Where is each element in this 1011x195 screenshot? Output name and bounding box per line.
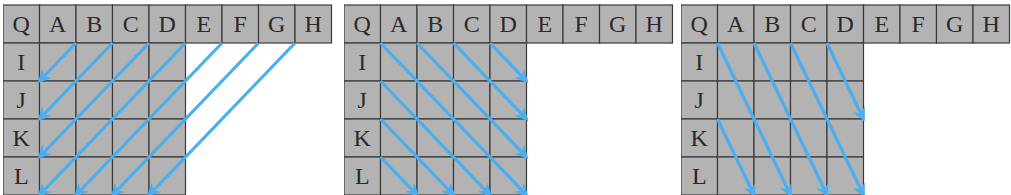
header-label: C <box>123 11 139 37</box>
header-label: B <box>86 11 102 37</box>
panel-steep-down-right: QABCDEFGHIJKL <box>681 0 1011 195</box>
row-label: L <box>355 163 370 189</box>
panel-diagonal-down-left: QABCDEFGHIJKL <box>3 0 333 195</box>
header-label: D <box>159 11 176 37</box>
header-label: C <box>801 11 817 37</box>
header-label: Q <box>691 11 708 37</box>
header-label: F <box>575 11 588 37</box>
header-label: D <box>500 11 517 37</box>
header-label: B <box>764 11 780 37</box>
header-label: Q <box>13 11 30 37</box>
header-label: Q <box>354 11 371 37</box>
header-label: C <box>464 11 480 37</box>
row-label: I <box>358 49 366 75</box>
header-label: D <box>837 11 854 37</box>
header-label: H <box>305 11 322 37</box>
row-label: K <box>354 125 372 151</box>
grid-cell <box>718 157 755 195</box>
row-label: J <box>17 87 26 113</box>
grid-cell <box>827 119 864 157</box>
header-label: H <box>983 11 1000 37</box>
header-label: G <box>609 11 626 37</box>
row-label: K <box>691 125 709 151</box>
header-label: A <box>49 11 67 37</box>
grid-cell <box>827 43 864 81</box>
grid-cell <box>791 157 828 195</box>
header-label: E <box>874 11 889 37</box>
row-label: I <box>17 49 25 75</box>
header-label: B <box>427 11 443 37</box>
grid-cell <box>718 81 755 119</box>
grid-cell <box>754 81 791 119</box>
header-label: G <box>946 11 963 37</box>
row-label: I <box>695 49 703 75</box>
grid-cell <box>791 81 828 119</box>
header-label: H <box>646 11 663 37</box>
header-label: E <box>537 11 552 37</box>
grid-cell <box>718 119 755 157</box>
grid-cell <box>827 81 864 119</box>
header-label: F <box>234 11 247 37</box>
row-label: J <box>358 87 367 113</box>
row-label: L <box>14 163 29 189</box>
grid-cell <box>827 157 864 195</box>
panel-diagonal-down-right: QABCDEFGHIJKL <box>344 0 674 195</box>
header-label: A <box>727 11 745 37</box>
grid-cell <box>791 119 828 157</box>
header-label: E <box>196 11 211 37</box>
header-label: A <box>390 11 408 37</box>
grid-cell <box>754 157 791 195</box>
grid-cell <box>718 43 755 81</box>
row-label: K <box>13 125 31 151</box>
row-label: J <box>695 87 704 113</box>
header-label: F <box>912 11 925 37</box>
grid-cell <box>791 43 828 81</box>
row-label: L <box>692 163 707 189</box>
grid-cell <box>754 119 791 157</box>
grid-cell <box>754 43 791 81</box>
header-label: G <box>268 11 285 37</box>
